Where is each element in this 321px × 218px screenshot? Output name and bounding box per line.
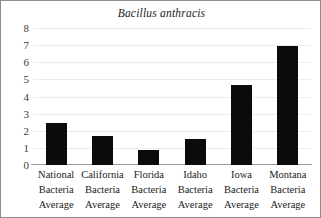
bar bbox=[92, 136, 113, 165]
x-tick-label-line: Average bbox=[265, 197, 311, 212]
bars-layer bbox=[33, 28, 311, 165]
y-tick-label: 1 bbox=[5, 142, 29, 153]
bar bbox=[231, 85, 252, 165]
y-tick-label: 4 bbox=[5, 91, 29, 102]
x-tick-label-line: Average bbox=[172, 197, 218, 212]
x-tick-label: MontanaBacteriaAverage bbox=[265, 167, 311, 212]
y-tick-label: 6 bbox=[5, 57, 29, 68]
x-tick-label-line: Bacteria bbox=[79, 182, 125, 197]
x-tick-label-line: Average bbox=[218, 197, 264, 212]
x-tick-label-line: Bacteria bbox=[33, 182, 79, 197]
x-tick-label-line: California bbox=[79, 167, 125, 182]
x-tick-label-line: Iowa bbox=[218, 167, 264, 182]
x-tick-label-line: Bacteria bbox=[218, 182, 264, 197]
x-tick-label: FloridaBacteriaAverage bbox=[126, 167, 172, 212]
bar bbox=[138, 150, 159, 165]
bar bbox=[46, 123, 67, 165]
y-tick-label: 7 bbox=[5, 40, 29, 51]
x-axis-labels: NationalBacteriaAverageCaliforniaBacteri… bbox=[33, 167, 311, 217]
chart-figure: Bacillus anthracis 012345678 NationalBac… bbox=[0, 0, 321, 218]
x-tick-label-line: Idaho bbox=[172, 167, 218, 182]
y-tick-label: 2 bbox=[5, 125, 29, 136]
x-tick-label: NationalBacteriaAverage bbox=[33, 167, 79, 212]
y-tick-label: 3 bbox=[5, 108, 29, 119]
bar bbox=[185, 139, 206, 165]
x-tick-label: CaliforniaBacteriaAverage bbox=[79, 167, 125, 212]
x-tick-label-line: Average bbox=[126, 197, 172, 212]
x-tick-label-line: Average bbox=[33, 197, 79, 212]
y-tick-label: 0 bbox=[5, 160, 29, 171]
x-tick-label-line: Florida bbox=[126, 167, 172, 182]
chart-title: Bacillus anthracis bbox=[1, 7, 321, 19]
y-tick-label: 5 bbox=[5, 74, 29, 85]
x-tick-label-line: Bacteria bbox=[265, 182, 311, 197]
x-tick-label-line: National bbox=[33, 167, 79, 182]
x-tick-label: IowaBacteriaAverage bbox=[218, 167, 264, 212]
x-tick-label-line: Montana bbox=[265, 167, 311, 182]
x-tick-label-line: Bacteria bbox=[172, 182, 218, 197]
y-axis: 012345678 bbox=[1, 28, 29, 165]
x-tick-label: IdahoBacteriaAverage bbox=[172, 167, 218, 212]
bar bbox=[277, 46, 298, 165]
x-tick-label-line: Average bbox=[79, 197, 125, 212]
x-tick-label-line: Bacteria bbox=[126, 182, 172, 197]
y-tick-label: 8 bbox=[5, 23, 29, 34]
